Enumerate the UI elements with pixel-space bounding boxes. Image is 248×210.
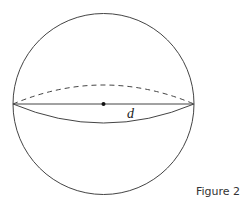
center-point: [102, 102, 106, 106]
sphere-diagram: d: [0, 0, 248, 210]
equator-front-arc: [13, 104, 194, 123]
figure-caption: Figure 2: [196, 185, 240, 198]
equator-back-arc: [13, 85, 194, 104]
diameter-label: d: [127, 106, 135, 121]
